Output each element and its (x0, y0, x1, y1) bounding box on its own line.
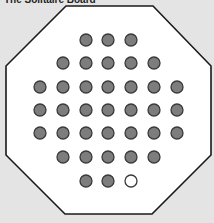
peg[interactable] (102, 104, 114, 116)
peg[interactable] (80, 104, 92, 116)
peg[interactable] (171, 127, 183, 139)
peg[interactable] (148, 127, 160, 139)
peg[interactable] (102, 151, 114, 163)
peg[interactable] (102, 34, 114, 46)
peg[interactable] (125, 57, 137, 69)
peg[interactable] (102, 81, 114, 93)
peg[interactable] (80, 127, 92, 139)
peg[interactable] (148, 104, 160, 116)
peg[interactable] (80, 175, 92, 187)
peg[interactable] (125, 151, 137, 163)
peg[interactable] (57, 81, 69, 93)
peg[interactable] (102, 127, 114, 139)
empty-hole[interactable] (125, 175, 137, 187)
peg[interactable] (80, 151, 92, 163)
peg[interactable] (148, 151, 160, 163)
peg[interactable] (148, 57, 160, 69)
peg[interactable] (148, 81, 160, 93)
peg[interactable] (34, 81, 46, 93)
peg[interactable] (57, 104, 69, 116)
peg[interactable] (80, 81, 92, 93)
peg[interactable] (57, 57, 69, 69)
peg[interactable] (34, 104, 46, 116)
peg[interactable] (125, 104, 137, 116)
peg[interactable] (102, 175, 114, 187)
peg[interactable] (80, 57, 92, 69)
peg[interactable] (57, 127, 69, 139)
peg[interactable] (125, 81, 137, 93)
peg[interactable] (34, 127, 46, 139)
peg[interactable] (80, 34, 92, 46)
peg[interactable] (102, 57, 114, 69)
peg[interactable] (125, 34, 137, 46)
peg[interactable] (125, 127, 137, 139)
peg[interactable] (171, 104, 183, 116)
peg-solitaire-board (0, 0, 214, 223)
peg[interactable] (171, 81, 183, 93)
peg[interactable] (57, 151, 69, 163)
